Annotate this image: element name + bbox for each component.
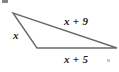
- triangle-figure: x x + 9 x + 5: [0, 0, 119, 72]
- scan-speck-bottom-right: [107, 59, 110, 62]
- scan-speck-top-left: [2, 0, 8, 3]
- side-label-left: x: [13, 30, 19, 41]
- side-label-upper-right: x + 9: [64, 16, 88, 27]
- side-label-bottom: x + 5: [64, 54, 88, 65]
